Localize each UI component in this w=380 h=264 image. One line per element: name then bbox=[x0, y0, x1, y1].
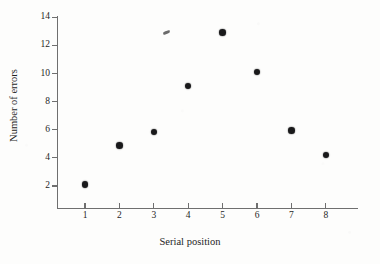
y-axis-tick-label: 6 bbox=[30, 125, 50, 135]
y-axis-tick-label: 12 bbox=[30, 40, 50, 50]
scatter-plot-figure: 2468101214 12345678 Number of errors Ser… bbox=[0, 0, 380, 264]
scan-artifact-speck bbox=[163, 30, 171, 35]
y-axis-tick-mark bbox=[52, 17, 58, 18]
x-axis-tick-label: 8 bbox=[318, 211, 334, 221]
data-point bbox=[116, 142, 123, 149]
x-axis-tick-mark bbox=[188, 203, 189, 209]
x-axis-line bbox=[57, 208, 358, 209]
data-point bbox=[219, 29, 226, 36]
y-axis-tick-mark bbox=[52, 185, 58, 186]
x-axis-tick-label: 3 bbox=[146, 211, 162, 221]
y-axis-tick-mark bbox=[52, 73, 58, 74]
x-axis-tick-mark bbox=[256, 203, 257, 209]
x-axis-tick-mark bbox=[153, 203, 154, 209]
x-axis-title-text: Serial position bbox=[160, 236, 221, 247]
y-axis-tick-mark bbox=[52, 157, 58, 158]
x-axis-tick-mark bbox=[291, 203, 292, 209]
data-point bbox=[185, 83, 192, 90]
x-axis-tick-mark bbox=[119, 203, 120, 209]
y-axis-tick-label: 2 bbox=[30, 181, 50, 191]
data-point bbox=[323, 152, 330, 159]
x-axis-tick-label: 1 bbox=[77, 211, 93, 221]
y-axis-tick-mark bbox=[52, 101, 58, 102]
y-axis-title: Number of errors bbox=[6, 50, 20, 160]
y-axis-tick-label: 8 bbox=[30, 97, 50, 107]
x-axis-tick-label: 2 bbox=[111, 211, 127, 221]
x-axis-tick-label: 7 bbox=[283, 211, 299, 221]
x-axis-tick-mark bbox=[222, 203, 223, 209]
data-point bbox=[151, 129, 158, 136]
x-axis-tick-mark bbox=[325, 203, 326, 209]
y-axis-tick-label: 4 bbox=[30, 153, 50, 163]
y-axis-title-text: Number of errors bbox=[8, 69, 19, 142]
x-axis-tick-label: 4 bbox=[180, 211, 196, 221]
y-axis-tick-mark bbox=[52, 129, 58, 130]
x-axis-tick-mark bbox=[84, 203, 85, 209]
x-axis-tick-label: 6 bbox=[249, 211, 265, 221]
y-axis-tick-label: 10 bbox=[30, 69, 50, 79]
data-point bbox=[288, 127, 295, 134]
y-axis-tick-mark bbox=[52, 45, 58, 46]
x-axis-title: Serial position bbox=[0, 236, 380, 247]
data-point bbox=[254, 69, 261, 76]
y-axis-tick-label: 14 bbox=[30, 12, 50, 22]
data-point bbox=[82, 181, 89, 188]
x-axis-tick-label: 5 bbox=[215, 211, 231, 221]
